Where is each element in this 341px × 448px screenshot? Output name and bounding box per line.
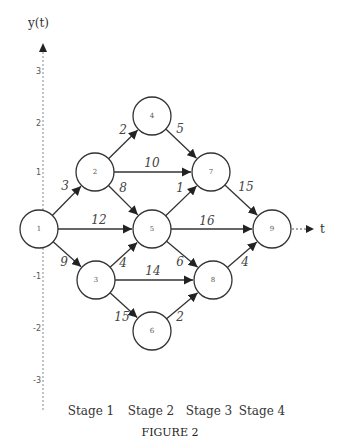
node-label: 7	[209, 168, 213, 176]
y-tick-label: -2	[33, 324, 41, 333]
node-5: 5	[133, 210, 171, 248]
node-label: 9	[270, 225, 274, 233]
edge-weight-label: 8	[119, 181, 127, 195]
edge-weight-label: 4	[118, 256, 127, 270]
y-tick-label: 2	[36, 119, 41, 128]
edge-weight-label: 2	[118, 123, 127, 137]
edge-weight-label: 14	[145, 264, 160, 278]
node-8: 8	[194, 261, 232, 299]
edge-weight-label: 15	[238, 180, 253, 194]
edge-weight-label: 9	[60, 255, 68, 269]
edge-weight-label: 10	[144, 156, 160, 170]
edge-weight-label: 12	[91, 213, 106, 227]
t-axis-arrow-icon	[306, 225, 314, 233]
node-4: 4	[133, 97, 171, 135]
edge-weight-label: 6	[176, 255, 184, 269]
node-1: 1	[20, 210, 58, 248]
edge-weight-label: 15	[114, 310, 129, 324]
nodes: 123456789	[20, 97, 291, 350]
figure-caption: FIGURE 2	[142, 426, 199, 439]
y-axis-arrow-icon	[39, 43, 47, 52]
node-label: 6	[150, 327, 155, 335]
edge-weight-label: 1	[176, 181, 184, 195]
node-label: 5	[150, 225, 154, 233]
stage-label: Stage 1	[68, 404, 114, 418]
stage-label: Stage 2	[128, 404, 174, 418]
edge-weight-label: 16	[199, 214, 215, 228]
y-axis-label: y(t)	[27, 16, 49, 30]
node-label: 8	[211, 276, 215, 284]
node-7: 7	[192, 153, 230, 191]
node-6: 6	[133, 312, 171, 350]
node-2: 2	[76, 153, 114, 191]
stage-label: Stage 4	[239, 404, 286, 418]
y-tick-label: 1	[36, 168, 41, 177]
t-axis-label: t	[320, 222, 325, 236]
node-3: 3	[77, 261, 115, 299]
edge-weight-label: 4	[240, 255, 249, 269]
stage-network-diagram: y(t) 321-1-2-3 t 3129210841415511662154 …	[0, 0, 341, 448]
node-label: 4	[150, 112, 155, 120]
y-tick-label: -1	[33, 272, 41, 281]
stage-labels: Stage 1Stage 2Stage 3Stage 4	[68, 404, 286, 418]
edge-weight-label: 3	[61, 179, 69, 193]
node-label: 3	[94, 276, 98, 284]
edge-weight-label: 5	[176, 122, 184, 136]
y-tick-label: 3	[36, 67, 41, 76]
node-label: 2	[93, 168, 97, 176]
node-label: 1	[37, 225, 41, 233]
node-9: 9	[253, 210, 291, 248]
stage-label: Stage 3	[186, 404, 232, 418]
t-axis: t	[292, 222, 325, 236]
y-tick-label: -3	[33, 376, 41, 385]
edge-weight-label: 2	[175, 310, 184, 324]
